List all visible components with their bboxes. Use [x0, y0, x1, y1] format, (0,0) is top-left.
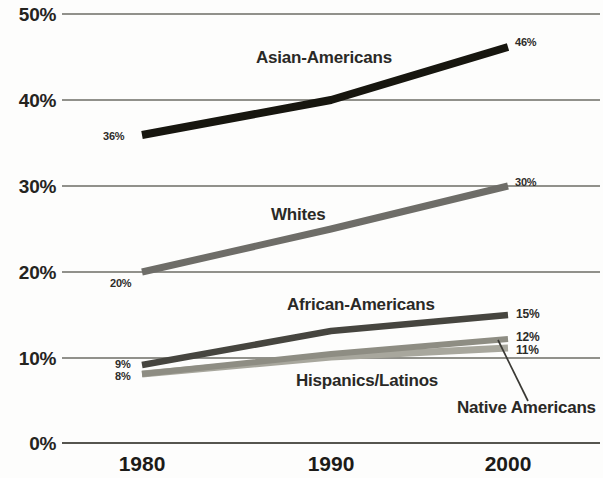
point-label-african-start: 9%: [115, 358, 131, 370]
line-chart: 50% 40% 30% 20% 10% 0% 1980 1990 2000 As…: [0, 0, 603, 478]
series-label-african-americans: African-Americans: [287, 295, 435, 315]
y-tick-30: 30%: [0, 176, 56, 198]
y-tick-40: 40%: [0, 90, 56, 112]
series-label-asian-americans: Asian-Americans: [256, 48, 392, 68]
point-label-hispanic-end: 12%: [516, 330, 539, 344]
x-tick-2000: 2000: [458, 452, 558, 476]
point-label-asian-end: 46%: [515, 36, 536, 48]
series-label-hispanics-latinos: Hispanics/Latinos: [296, 371, 438, 391]
x-tick-1990: 1990: [281, 452, 381, 476]
series-label-native-americans: Native Americans: [457, 398, 596, 418]
y-tick-0: 0%: [0, 433, 56, 455]
y-tick-50: 50%: [0, 4, 56, 26]
point-label-native-end: 11%: [516, 343, 539, 357]
point-label-asian-start: 36%: [103, 130, 124, 142]
point-label-whites-start: 20%: [110, 277, 131, 289]
point-label-hispanic-start: 8%: [115, 370, 131, 382]
point-label-african-end: 15%: [516, 307, 539, 321]
y-tick-20: 20%: [0, 262, 56, 284]
point-label-whites-end: 30%: [515, 176, 536, 188]
y-tick-10: 10%: [0, 348, 56, 370]
series-label-whites: Whites: [271, 205, 326, 225]
series-line-whites: [142, 186, 508, 272]
x-tick-1980: 1980: [92, 452, 192, 476]
